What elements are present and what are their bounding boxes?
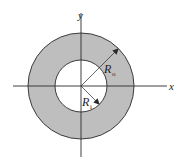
annulus-diagram: y x R o R i [0, 0, 185, 165]
y-axis-label: y [77, 9, 83, 21]
outer-radius-label: R [103, 62, 112, 76]
inner-radius-label: R [81, 95, 90, 109]
inner-radius-subscript: i [90, 103, 92, 111]
x-axis-label: x [168, 80, 174, 92]
outer-radius-subscript: o [112, 70, 116, 78]
